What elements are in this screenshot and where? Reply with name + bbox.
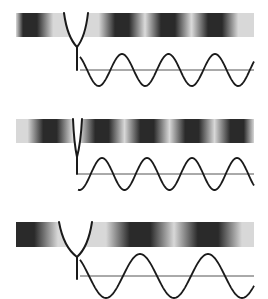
pressure-band [16, 222, 254, 247]
pressure-band [16, 13, 254, 37]
tuning-fork-diagram [0, 0, 268, 299]
panel-2 [16, 119, 254, 190]
pressure-band [16, 119, 254, 143]
panel-1 [16, 13, 254, 86]
panel-3 [16, 222, 254, 298]
diagram-canvas [0, 0, 268, 299]
